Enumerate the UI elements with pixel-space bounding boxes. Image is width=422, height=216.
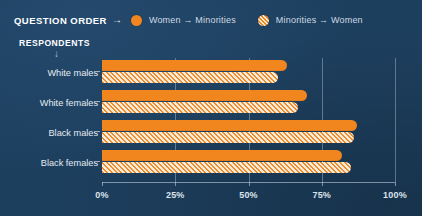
right-arrow-icon: →: [112, 15, 122, 25]
solid-circle-icon: [131, 15, 142, 26]
legend-item-label: Women → Minorities: [149, 15, 236, 25]
y-axis-tick: [94, 161, 100, 162]
legend-item-minorities-women[interactable]: Minorities → Women: [258, 15, 363, 26]
bar: [102, 120, 357, 131]
y-axis-tick: [94, 71, 100, 72]
gridline: [395, 58, 396, 182]
legend-item-women-minorities[interactable]: Women → Minorities: [131, 15, 236, 26]
down-arrow-icon: ↓: [54, 49, 59, 59]
x-axis-tick-label: 25%: [166, 190, 185, 200]
legend-title: QUESTION ORDER: [14, 15, 107, 26]
legend-item-label: Minorities → Women: [276, 15, 363, 25]
y-axis-category-label: White males: [0, 68, 98, 78]
x-axis-tick-label: 75%: [312, 190, 331, 200]
bar: [102, 60, 287, 71]
y-axis-category-label: White females: [0, 98, 98, 108]
axis-tick: [395, 182, 396, 186]
bar: [102, 162, 351, 173]
bar: [102, 72, 278, 83]
bar: [102, 150, 342, 161]
legend: QUESTION ORDER → Women → Minorities Mino…: [14, 11, 416, 29]
y-axis-tick: [94, 131, 100, 132]
respondents-label: RESPONDENTS: [19, 38, 90, 48]
y-axis-category-label: Black females: [0, 158, 98, 168]
plot-area: 0%25%50%75%100%White malesWhite femalesB…: [0, 0, 422, 216]
bar: [102, 102, 298, 113]
x-axis-line: [102, 182, 395, 183]
bar: [102, 90, 307, 101]
y-axis-tick: [94, 101, 100, 102]
bar: [102, 132, 354, 143]
y-axis-category-label: Black males: [0, 128, 98, 138]
x-axis-tick-label: 100%: [383, 190, 407, 200]
hatched-circle-icon: [258, 15, 269, 26]
x-axis-tick-label: 0%: [95, 190, 108, 200]
x-axis-tick-label: 50%: [239, 190, 258, 200]
